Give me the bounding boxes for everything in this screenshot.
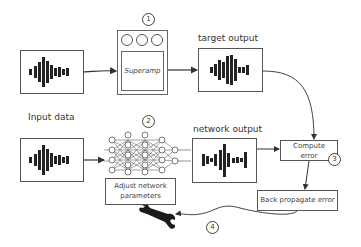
input-waveform-bottom-box xyxy=(20,138,84,182)
arrow-input-to-pedal xyxy=(79,71,116,72)
step-2-badge: 2 xyxy=(142,115,155,128)
input-data-label: Input data xyxy=(28,112,74,122)
back-propagate-label: Back propagate error xyxy=(260,196,334,204)
waveform-icon xyxy=(21,139,83,181)
compute-error-line1: Compute xyxy=(281,141,337,151)
target-output-label: target output xyxy=(198,33,258,43)
knob-icon xyxy=(136,34,148,46)
network-output-label: network output xyxy=(193,124,262,134)
neural-network-icon xyxy=(104,132,178,175)
knob-icon xyxy=(151,34,163,46)
step-3-badge: 3 xyxy=(328,153,341,166)
adjust-line1: Adjust network xyxy=(106,181,175,191)
adjust-parameters-box: Adjust network parameters xyxy=(105,178,176,205)
step-4-badge: 4 xyxy=(206,221,219,234)
waveform-icon xyxy=(21,51,83,93)
waveform-icon xyxy=(199,49,262,91)
arrow-compute-to-backprop xyxy=(305,161,309,189)
arrow-target-to-compute xyxy=(263,71,314,139)
network-output-box xyxy=(192,138,257,183)
back-propagate-box: Back propagate error xyxy=(257,190,338,211)
pedal-label: Superamp xyxy=(121,51,164,91)
input-waveform-top-box xyxy=(20,50,84,94)
step-1-badge: 1 xyxy=(142,13,155,26)
target-output-box xyxy=(198,48,263,92)
adjust-line2: parameters xyxy=(106,191,175,201)
wrench-icon xyxy=(139,202,175,229)
knob-icon xyxy=(121,34,133,46)
superamp-pedal: Superamp xyxy=(117,30,168,95)
waveform-icon xyxy=(193,139,256,182)
